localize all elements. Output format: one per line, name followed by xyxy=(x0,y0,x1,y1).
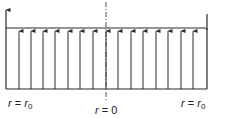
label-center: r = 0 xyxy=(95,104,117,116)
label-left-wall: r = r0 xyxy=(8,97,32,111)
velocity-arrows xyxy=(19,31,193,89)
label-right-wall: r = r0 xyxy=(181,97,205,111)
